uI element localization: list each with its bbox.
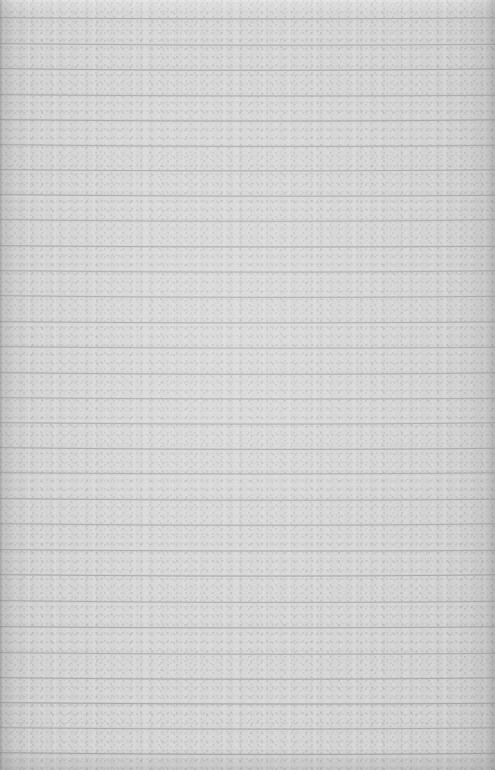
ruled-lines-layer: [0, 0, 495, 770]
ruled-lines-svg: [0, 0, 495, 770]
notebook-page: [0, 0, 495, 770]
